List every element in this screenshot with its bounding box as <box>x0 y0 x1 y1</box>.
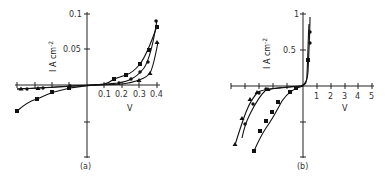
x-tick-label: 2 <box>328 92 333 101</box>
x-tick-label: 5 <box>369 92 374 101</box>
x-tick-label: 0.3 <box>133 90 146 99</box>
series-triangles <box>235 86 303 145</box>
x-tick-label: 0.2 <box>115 90 128 99</box>
figure: 0.1 0.05 0.1 0.2 0.3 0.4 V I A cm-2 (a) <box>0 0 387 182</box>
markers-squares <box>252 58 310 153</box>
x-tick-label: 4 <box>355 92 360 101</box>
x-tick-label: 3 <box>342 92 347 101</box>
markers-triangles <box>233 87 271 146</box>
markers-circles <box>243 30 311 125</box>
panel-a: 0.1 0.05 0.1 0.2 0.3 0.4 V I A cm-2 (a) <box>15 10 163 171</box>
x-tick-label: 0.4 <box>150 90 163 99</box>
y-tick-label: 1 <box>294 10 299 19</box>
y-tick-label: 0.1 <box>69 10 82 19</box>
y-axis-title: I A cm-2 <box>47 41 58 72</box>
panel-label: (a) <box>80 162 91 171</box>
y-axis-title: I A cm-2 <box>261 38 272 69</box>
panel-b: 1 0.5 1 2 3 4 5 V I A cm-2 (b) <box>231 10 374 171</box>
y-tick-label: 0.5 <box>283 46 296 55</box>
x-axis-title: V <box>342 104 348 113</box>
panel-label: (b) <box>297 162 308 171</box>
x-tick-label: 0.1 <box>98 90 111 99</box>
y-tick-label: 0.05 <box>63 45 81 54</box>
x-tick-label: 1 <box>314 92 319 101</box>
x-axis-title: V <box>127 104 133 113</box>
